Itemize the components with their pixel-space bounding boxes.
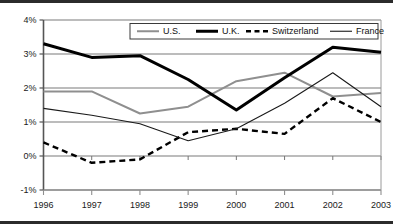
y-tick-label: 0%	[23, 151, 36, 161]
legend-label-us: U.S.	[163, 26, 181, 36]
legend-label-france: France	[356, 26, 384, 36]
y-tick-label: 2%	[23, 83, 36, 93]
legend-label-uk: U.K.	[222, 26, 240, 36]
bottom-divider-rule	[0, 221, 393, 224]
y-tick-label: 3%	[23, 49, 36, 59]
legend-label-switzerland: Switzerland	[272, 26, 319, 36]
x-tick-label: 1997	[82, 200, 102, 210]
gridlines-group	[44, 20, 382, 190]
top-divider-rule	[0, 0, 393, 3]
x-tick-label: 2001	[275, 200, 295, 210]
chart-legend: U.S.U.K.SwitzerlandFrance	[130, 24, 384, 40]
plot-area-container: -1%0%1%2%3%4% 19961997199819992000200120…	[0, 4, 393, 220]
x-tick-label: 1999	[178, 200, 198, 210]
y-tick-label: 1%	[23, 117, 36, 127]
y-tick-label: 4%	[23, 15, 36, 25]
x-tick-label: 1998	[130, 200, 150, 210]
series-line-switzerland	[44, 98, 382, 163]
x-tick-label: 2003	[371, 200, 391, 210]
x-tick-label: 1996	[33, 200, 53, 210]
data-series-group	[44, 44, 382, 163]
x-tick-label: 2000	[226, 200, 246, 210]
x-axis-tick-labels: 19961997199819992000200120022003	[33, 190, 391, 210]
y-axis-tick-labels: -1%0%1%2%3%4%	[20, 15, 43, 195]
axis-lines-group	[44, 20, 382, 190]
x-tick-label: 2002	[323, 200, 343, 210]
line-chart: -1%0%1%2%3%4% 19961997199819992000200120…	[0, 4, 393, 220]
y-tick-label: -1%	[20, 185, 36, 195]
chart-figure: -1%0%1%2%3%4% 19961997199819992000200120…	[0, 0, 393, 224]
